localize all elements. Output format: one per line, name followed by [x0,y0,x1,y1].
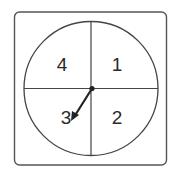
section-label-4: 4 [57,54,68,75]
section-label-1: 1 [112,54,123,75]
section-label-2: 2 [112,107,123,128]
section-label-3: 3 [61,107,72,128]
spinner-diagram: 4 1 3 2 [0,0,174,177]
